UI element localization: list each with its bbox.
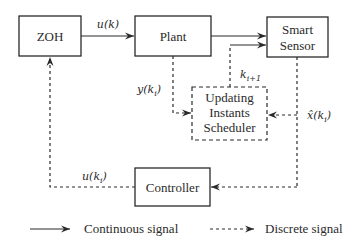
legend: Continuous signal Discrete signal xyxy=(30,221,343,236)
controller-block: Controller xyxy=(135,168,210,206)
smart-sensor-label-line1: Smart xyxy=(282,22,313,37)
scheduler-block: Updating Instants Scheduler xyxy=(192,87,267,140)
smart-sensor-label-line2: Sensor xyxy=(280,38,316,53)
signal-y-ki: y(ki) xyxy=(136,56,191,113)
k-next-label: ki+1 xyxy=(240,68,261,83)
smart-sensor-block: Smart Sensor xyxy=(267,17,328,57)
scheduler-label-line3: Scheduler xyxy=(204,120,257,135)
legend-continuous: Continuous signal xyxy=(30,221,179,236)
legend-continuous-label: Continuous signal xyxy=(84,221,179,236)
plant-block: Plant xyxy=(135,16,211,56)
y-ki-label: y(ki) xyxy=(136,83,161,98)
u-k-label: u(k) xyxy=(97,18,119,31)
zoh-label: ZOH xyxy=(37,29,64,44)
xhat-ki-label: x̂(ki) xyxy=(307,109,331,124)
block-diagram: ZOH Plant Smart Sensor Updating Instants… xyxy=(0,0,357,248)
legend-discrete: Discrete signal xyxy=(210,221,343,236)
plant-label: Plant xyxy=(160,29,187,44)
scheduler-label-line2: Instants xyxy=(209,105,249,120)
signal-u-k: u(k) xyxy=(81,18,134,36)
controller-label: Controller xyxy=(146,180,200,195)
u-ki-label: u(ki) xyxy=(82,170,107,185)
signal-k-next: ki+1 xyxy=(230,45,266,87)
legend-discrete-label: Discrete signal xyxy=(265,221,343,236)
signal-u-ki: u(ki) xyxy=(50,57,135,187)
scheduler-label-line1: Updating xyxy=(205,90,254,105)
zoh-block: ZOH xyxy=(19,16,81,56)
